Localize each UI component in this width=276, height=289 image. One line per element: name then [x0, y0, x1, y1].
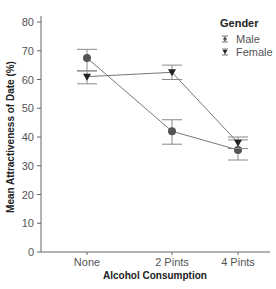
x-tick-label: 2 Pints	[155, 256, 189, 268]
legend-title: Gender	[220, 17, 259, 29]
y-tick-label: 60	[22, 74, 34, 86]
x-tick-label: 4 Pints	[221, 256, 255, 268]
y-tick-label: 50	[22, 102, 34, 114]
legend-item-male: Male	[236, 33, 260, 45]
y-axis: 01020304050607080	[22, 16, 41, 258]
female-data-point	[83, 74, 91, 81]
y-tick-label: 20	[22, 189, 34, 201]
male-data-point	[83, 54, 91, 62]
x-axis-label: Alcohol Consumption	[103, 270, 207, 281]
legend-item-female: Female	[236, 46, 273, 58]
y-axis-label: Mean Attractiveness of Date (%)	[5, 61, 16, 213]
chart: 01020304050607080 None2 Pints4 Pints Gen…	[0, 0, 276, 289]
female-data-point	[234, 140, 242, 147]
y-tick-label: 40	[22, 131, 34, 143]
male-data-point	[168, 127, 176, 135]
y-tick-label: 30	[22, 160, 34, 172]
x-tick-label: None	[74, 256, 100, 268]
x-axis: None2 Pints4 Pints	[41, 252, 270, 268]
series-group	[77, 49, 248, 160]
y-tick-label: 80	[22, 16, 34, 28]
legend: GenderMaleFemale	[220, 17, 273, 58]
y-tick-label: 0	[28, 246, 34, 258]
y-tick-label: 70	[22, 45, 34, 57]
y-tick-label: 10	[22, 217, 34, 229]
